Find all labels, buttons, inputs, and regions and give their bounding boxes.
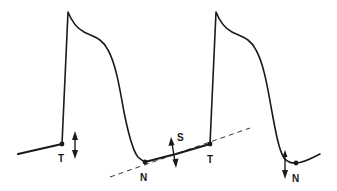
initial-baseline: [18, 144, 62, 154]
label-nadir-2: N: [292, 173, 299, 184]
label-threshold-1: T: [58, 153, 64, 164]
action-potential-diagram: T N S T N: [0, 0, 337, 191]
threshold-1-double-arrow-icon: [72, 131, 78, 159]
threshold-2-dot: [208, 142, 213, 147]
label-nadir-1: N: [140, 172, 147, 183]
threshold-1-dot: [60, 142, 65, 147]
nadir-1-dot: [143, 160, 148, 165]
label-slope: S: [177, 132, 184, 143]
nadir-2-dot: [294, 161, 299, 166]
action-potential-2: [210, 12, 320, 163]
label-threshold-2: T: [207, 154, 213, 165]
